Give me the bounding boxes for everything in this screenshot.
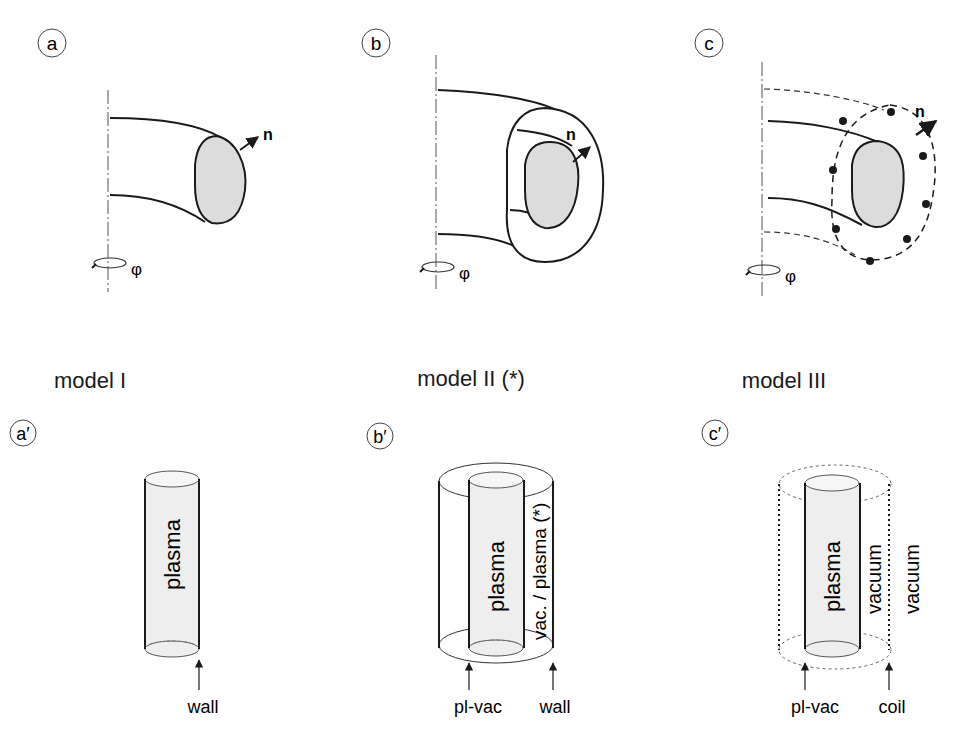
- rotation-arrow: [94, 258, 126, 268]
- model-label-3: model III: [742, 368, 826, 394]
- torus-inner-edge: [110, 195, 205, 222]
- normal-label: n: [263, 126, 273, 143]
- outer-vacuum-label: vacuum: [901, 544, 923, 614]
- panel-label-b-prime: b′: [373, 427, 387, 447]
- panel-a-prime: plasma wall: [145, 471, 219, 717]
- panel-label: a: [47, 33, 58, 54]
- plasma-label: plasma: [820, 540, 845, 612]
- normal-label: n: [566, 126, 576, 143]
- plasma-label: plasma: [160, 518, 185, 590]
- rotation-arrowhead: [92, 264, 96, 268]
- coil-label: coil: [878, 697, 905, 717]
- angle-label: φ: [785, 267, 796, 286]
- pl-vac-label: pl-vac: [454, 697, 502, 717]
- plasma-cross-section: [195, 136, 245, 223]
- panel-label-c-prime: c′: [709, 424, 722, 444]
- gap-label: vac. / plasma (*): [529, 503, 550, 640]
- panel-c: c n φ: [695, 29, 936, 298]
- panel-b-prime: plasma vac. / plasma (*) pl-vac wall: [439, 463, 571, 717]
- panel-label: c: [704, 33, 714, 54]
- angle-label: φ: [459, 264, 470, 283]
- normal-vector-arrow: [240, 137, 258, 150]
- panel-label: b: [371, 33, 382, 54]
- panel-b: b n φ: [362, 29, 603, 292]
- torus-outer-edge: [110, 118, 222, 138]
- pl-vac-label: pl-vac: [791, 697, 839, 717]
- gap-vacuum-label: vacuum: [863, 544, 885, 614]
- normal-label: n: [915, 103, 925, 120]
- panel-c-prime: plasma vacuum vacuum pl-vac coil: [779, 465, 923, 717]
- plasma-cross-section: [852, 141, 904, 227]
- panel-a: a n φ: [38, 29, 273, 292]
- model-label-1: model I: [54, 368, 126, 394]
- plasma-label: plasma: [484, 540, 509, 612]
- angle-label: φ: [131, 260, 142, 279]
- model-label-2: model II (*): [417, 366, 525, 392]
- wall-label: wall: [186, 697, 218, 717]
- wall-label: wall: [538, 697, 570, 717]
- panel-label-a-prime: a′: [16, 424, 30, 444]
